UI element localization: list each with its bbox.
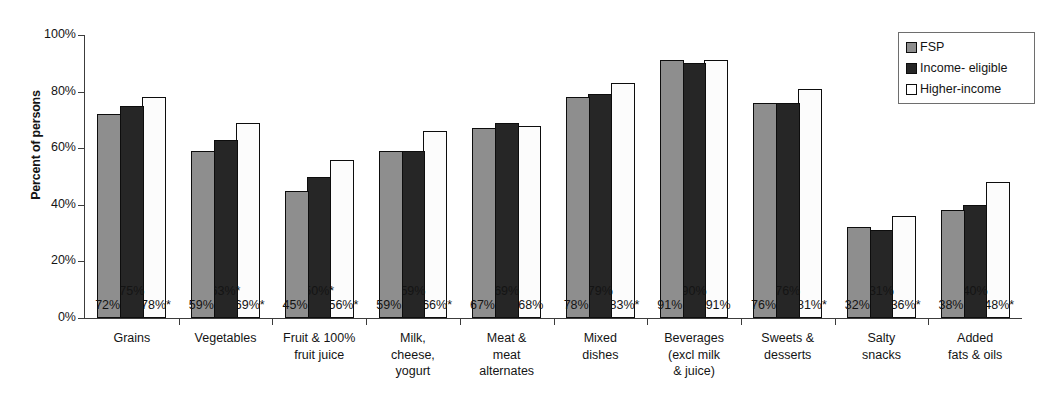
category-label-line: (excl milk [647,347,741,364]
bar[interactable]: 83%* [611,83,635,318]
x-axis-separator [647,318,648,325]
bar[interactable]: 67% [472,128,496,318]
legend-swatch-income-eligible [906,63,917,74]
bar-value-label: 59% [400,285,425,298]
bar[interactable]: 56%* [330,160,354,318]
bar[interactable]: 69%* [236,123,260,318]
bar[interactable]: 32% [847,227,871,318]
bar-value-label: 90% [682,285,707,298]
x-axis-category-label: Saltysnacks [835,330,929,363]
bar[interactable]: 45% [285,191,309,318]
bar-value-label: 78% [564,299,589,312]
bar-value-label: 75% [119,285,144,298]
y-axis-tick-label: 40% [2,197,76,211]
bar[interactable]: 48%* [986,182,1010,318]
y-axis-tick-label: 80% [2,84,76,98]
bar-value-label: 66%* [422,299,452,312]
bar-value-label: 76% [775,285,800,298]
bar-value-label: 91% [657,299,682,312]
bar[interactable]: 76% [753,103,777,318]
legend-swatch-fsp [906,42,917,53]
x-axis-category-label: Mixeddishes [554,330,648,363]
bar-value-label: 36%* [891,299,921,312]
bar-value-label: 79% [588,285,613,298]
x-axis-category-label: Sweets &desserts [741,330,835,363]
bar-value-label: 69%* [235,299,265,312]
bar-group: 72%75%78%* [85,0,179,318]
x-axis-separator [741,318,742,325]
category-label-line: Sweets & [741,330,835,347]
bar[interactable]: 59% [379,151,403,318]
bar[interactable]: 31% [869,230,893,318]
x-axis-category-label: Vegetables [179,330,273,347]
bar-value-label: 83%* [610,299,640,312]
bar-value-label: 45% [283,299,308,312]
bar[interactable]: 79% [588,94,612,318]
bar[interactable]: 76% [776,103,800,318]
bar[interactable]: 63%* [214,140,238,318]
category-label-line: Vegetables [179,330,273,347]
bar[interactable]: 69% [495,123,519,318]
bar-group: 76%76%81%* [741,0,835,318]
category-label-line: Mixed [554,330,648,347]
bar-group: 45%50%*56%* [272,0,366,318]
bar[interactable]: 59% [401,151,425,318]
bar[interactable]: 78% [566,97,590,318]
x-axis-separator [272,318,273,325]
bar-group: 78%79%83%* [554,0,648,318]
category-label-line: yogurt [366,363,460,380]
x-axis-category-label: Addedfats & oils [928,330,1022,363]
bar-value-label: 59% [189,299,214,312]
bar[interactable]: 68% [517,126,541,318]
bar[interactable]: 75% [120,106,144,318]
bar[interactable]: 90% [682,63,706,318]
bar[interactable]: 36%* [892,216,916,318]
bar[interactable]: 50%* [307,177,331,319]
legend-label-income-eligible: Income- eligible [920,61,1008,75]
bar-value-label: 68% [518,299,543,312]
legend-label-higher-income: Higher-income [920,82,1001,96]
bar[interactable]: 59% [191,151,215,318]
y-axis-tick-label: 20% [2,253,76,267]
bar[interactable]: 66%* [423,131,447,318]
category-label-line: Added [928,330,1022,347]
bar[interactable]: 78%* [142,97,166,318]
category-label-line: fruit juice [272,347,366,364]
bar-group: 91%90%91% [647,0,741,318]
category-label-line: meat [460,347,554,364]
category-label-line: Meat & [460,330,554,347]
bar-group: 59%63%*69%* [179,0,273,318]
bar-value-label: 38% [938,299,963,312]
bar[interactable]: 91% [660,60,684,318]
bar[interactable]: 38% [941,210,965,318]
legend-item-fsp[interactable]: FSP [906,40,1028,54]
plot-area: 72%75%78%*59%63%*69%*45%50%*56%*59%59%66… [85,35,1022,318]
bar-value-label: 59% [376,299,401,312]
legend-label-fsp: FSP [920,40,944,54]
x-axis-separator [460,318,461,325]
category-label-line: cheese, [366,347,460,364]
category-label-line: Salty [835,330,929,347]
category-label-line: alternates [460,363,554,380]
legend-item-income-eligible[interactable]: Income- eligible [906,61,1028,75]
bar[interactable]: 81%* [798,89,822,318]
bar-value-label: 48%* [984,299,1014,312]
legend-swatch-higher-income [906,84,917,95]
bar[interactable]: 91% [704,60,728,318]
category-label-line: dishes [554,347,648,364]
y-axis-tick-label: 60% [2,140,76,154]
bar[interactable]: 40% [963,205,987,318]
x-axis-category-label: Grains [85,330,179,347]
bar-value-label: 31% [869,285,894,298]
x-axis-separator [366,318,367,325]
bar-value-label: 78%* [141,299,171,312]
category-label-line: desserts [741,347,835,364]
bar-value-label: 81%* [797,299,827,312]
bar-chart: Percent of persons 100%80%60%40%20%0% 72… [0,0,1041,417]
x-axis-separator [928,318,929,325]
bar-value-label: 69% [494,285,519,298]
bar[interactable]: 72% [97,114,121,318]
bar-value-label: 56%* [328,299,358,312]
legend-item-higher-income[interactable]: Higher-income [906,82,1028,96]
category-label-line: snacks [835,347,929,364]
